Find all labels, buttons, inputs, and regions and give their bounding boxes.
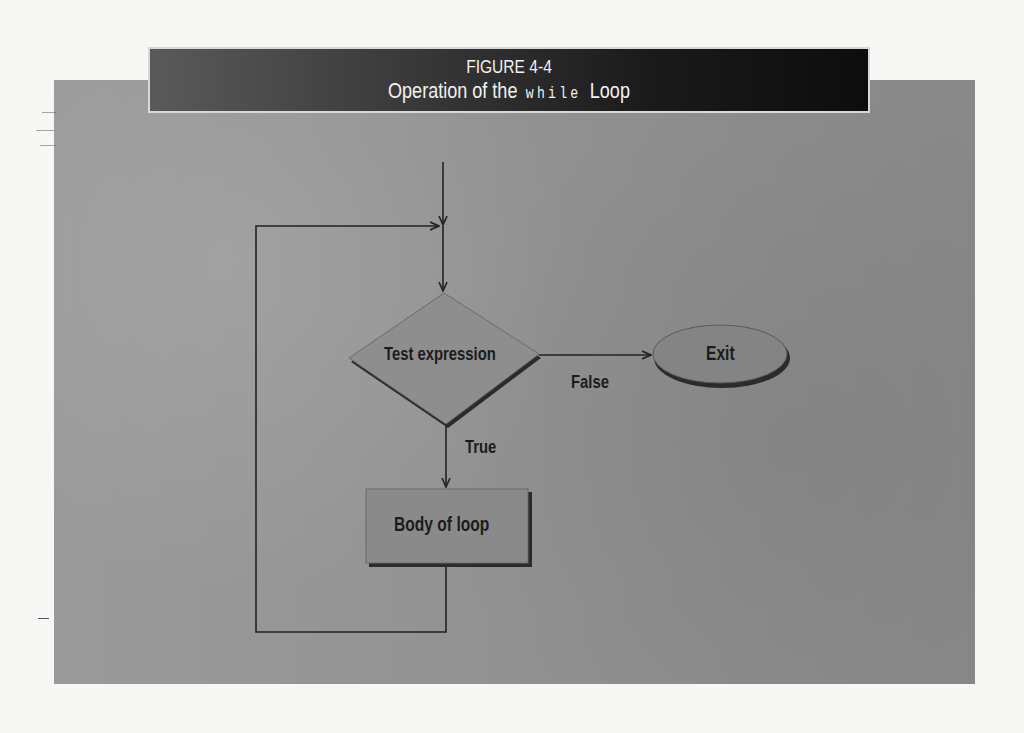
flowchart <box>0 0 1024 733</box>
test-expression-label: Test expression <box>384 343 496 365</box>
loop-back-arrow <box>256 226 446 632</box>
false-edge-label: False <box>571 371 609 393</box>
exit-label: Exit <box>706 342 735 365</box>
true-edge-label: True <box>465 436 496 458</box>
body-of-loop-label: Body of loop <box>394 513 489 536</box>
